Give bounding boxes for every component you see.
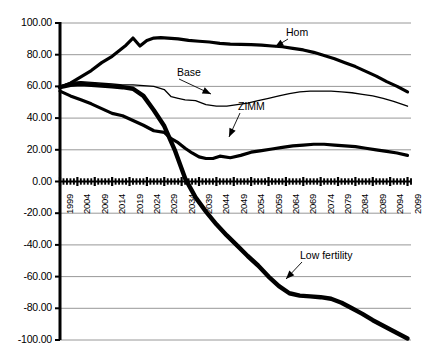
x-axis-tick-label: 2099 bbox=[412, 194, 423, 214]
x-axis-tick-label: 2009 bbox=[99, 194, 110, 214]
x-axis-tick-label: 2059 bbox=[273, 194, 284, 214]
y-axis-tick-label: -100.00 bbox=[18, 333, 52, 345]
x-axis-tick-label: 2084 bbox=[359, 194, 370, 214]
series-line-zimm bbox=[60, 91, 408, 158]
data-series-lines bbox=[60, 38, 408, 339]
x-axis-tick-label: 2004 bbox=[81, 194, 92, 214]
x-axis-tick-label: 2049 bbox=[238, 194, 249, 214]
x-axis-tick-label: 2014 bbox=[116, 194, 127, 214]
y-axis-tick-label: -40.00 bbox=[23, 238, 52, 250]
x-axis-tick-label: 2054 bbox=[255, 194, 266, 214]
y-axis-tick-label: 100.00 bbox=[21, 16, 52, 28]
x-axis-tick-label: 2094 bbox=[394, 194, 405, 214]
annotation-label-zimm: ZIMM bbox=[238, 100, 265, 112]
y-axis-tick-label: -80.00 bbox=[23, 301, 52, 313]
x-axis-tick-label: 2074 bbox=[325, 194, 336, 214]
y-axis-tick-label: 80.00 bbox=[27, 48, 52, 60]
x-axis-tick-label: 1999 bbox=[64, 194, 75, 214]
series-line-low-fertility bbox=[60, 84, 408, 338]
x-axis-tick-marks bbox=[60, 177, 411, 186]
x-axis-tick-label: 2024 bbox=[151, 194, 162, 214]
x-axis-tick-label: 2019 bbox=[134, 194, 145, 214]
x-axis-tick-label: 2029 bbox=[168, 194, 179, 214]
x-axis-tick-label: 2039 bbox=[203, 194, 214, 214]
x-axis-tick-label: 2064 bbox=[290, 194, 301, 214]
y-axis-tick-label: 20.00 bbox=[27, 143, 52, 155]
annotation-label-base: Base bbox=[177, 66, 201, 78]
chart-plot-area bbox=[0, 0, 430, 360]
chart-container: 100.0080.0060.0040.0020.000.00-20.00-40.… bbox=[0, 0, 430, 360]
y-axis-tick-label: 0.00 bbox=[32, 175, 52, 187]
x-axis-tick-label: 2089 bbox=[377, 194, 388, 214]
y-axis-tick-label: 60.00 bbox=[27, 79, 52, 91]
y-axis-tick-label: -20.00 bbox=[23, 206, 52, 218]
y-axis-tick-label: 40.00 bbox=[27, 111, 52, 123]
annotation-label-hom: Hom bbox=[286, 26, 308, 38]
annotation-label-low-fertility: Low fertility bbox=[300, 249, 353, 261]
x-axis-tick-label: 2034 bbox=[186, 194, 197, 214]
x-axis-tick-label: 2069 bbox=[307, 194, 318, 214]
x-axis-tick-label: 2079 bbox=[342, 194, 353, 214]
x-axis-tick-label: 2044 bbox=[220, 194, 231, 214]
y-axis-tick-label: -60.00 bbox=[23, 270, 52, 282]
